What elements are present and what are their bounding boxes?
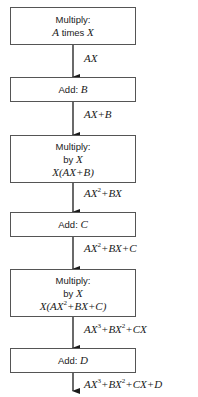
step-add-d: Add: D (10, 348, 136, 373)
step-multiply-by-x-1: Multiply: by X X(AX+B) (10, 135, 136, 183)
step-text: Add: C (58, 218, 88, 231)
edge-label-ax-plus-b: AX+B (84, 108, 112, 120)
step-multiply-by-x-2: Multiply: by X X(AX2+BX+C) (10, 269, 136, 317)
step-expr: X(AX+B) (52, 166, 94, 178)
step-multiply-a-times-x: Multiply: A times X (10, 7, 136, 45)
step-add-b: Add: B (10, 77, 136, 102)
step-detail: by X (63, 153, 82, 166)
edge-label-ax3-plus-bx2-plus-cx: AX3+BX2+CX (84, 323, 147, 335)
step-text: Add: B (59, 83, 88, 96)
step-op: Multiply: (56, 14, 91, 26)
step-op: Multiply: (56, 141, 91, 153)
step-add-c: Add: C (10, 212, 136, 237)
step-text: Add: D (58, 354, 88, 367)
step-expr: X(AX2+BX+C) (40, 300, 107, 312)
step-detail: by X (63, 287, 82, 300)
edge-label-ax: AX (84, 52, 97, 64)
edge-label-final: AX3+BX2+CX+D (84, 378, 162, 390)
step-op: Multiply: (56, 275, 91, 287)
edge-label-ax2-plus-bx: AX2+BX (84, 187, 122, 199)
step-detail: A times X (52, 26, 93, 39)
edge-label-ax2-plus-bx-plus-c: AX2+BX+C (84, 242, 137, 254)
